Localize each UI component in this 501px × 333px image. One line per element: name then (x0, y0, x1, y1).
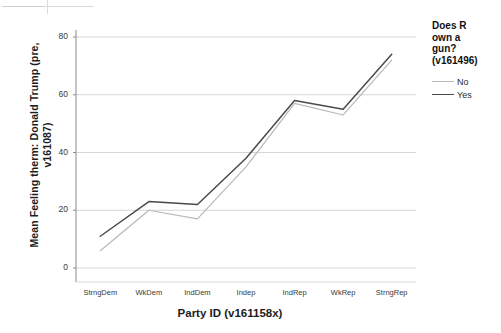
plot-area (0, 0, 501, 333)
legend-item[interactable]: No (432, 75, 501, 88)
x-tick-label: Indep (237, 288, 256, 297)
legend-swatch-line-icon (432, 81, 454, 82)
legend-title-line: own a (432, 32, 501, 44)
y-tick-label: 40 (42, 147, 68, 157)
legend-title-line: Does R (432, 20, 501, 32)
legend-title: Does R own a gun? (v161496) (432, 20, 501, 66)
legend-item[interactable]: Yes (432, 88, 501, 101)
legend-item-label: Yes (457, 90, 472, 100)
x-tick-label: WkRep (331, 288, 356, 297)
legend-swatch-line-icon (432, 94, 454, 95)
series-line-yes (100, 54, 391, 236)
x-tick-label: WkDem (136, 288, 163, 297)
series-line-no (100, 60, 391, 251)
legend-title-line: gun? (432, 43, 501, 55)
x-tick-label: StrngRep (376, 288, 408, 297)
legend-title-line: (v161496) (432, 55, 501, 67)
y-tick-label: 60 (42, 89, 68, 99)
y-tick-label: 80 (42, 31, 68, 41)
legend: Does R own a gun? (v161496) NoYes (432, 20, 501, 101)
legend-entries: NoYes (432, 75, 501, 101)
legend-item-label: No (457, 77, 469, 87)
y-tick-label: 0 (42, 262, 68, 272)
x-tick-label: IndRep (282, 288, 306, 297)
chart-container: Mean Feeling therm: Donald Trump (pre, v… (0, 0, 501, 333)
x-tick-label: StrngDem (83, 288, 117, 297)
x-tick-label: IndDem (184, 288, 210, 297)
y-tick-label: 20 (42, 204, 68, 214)
